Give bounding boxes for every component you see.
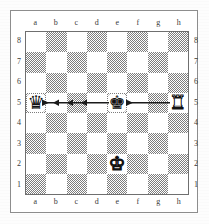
square-a4[interactable] — [26, 113, 46, 133]
square-d8[interactable] — [87, 32, 107, 52]
file-label-c-top: c — [66, 17, 87, 29]
square-h1[interactable] — [168, 174, 188, 194]
square-b4[interactable] — [46, 113, 66, 133]
square-e7[interactable] — [107, 52, 127, 72]
square-b5[interactable] — [46, 93, 66, 113]
square-g3[interactable] — [148, 133, 168, 153]
square-b3[interactable] — [46, 133, 66, 153]
file-label-g-top: g — [148, 17, 169, 29]
square-b8[interactable] — [46, 32, 66, 52]
square-f1[interactable] — [127, 174, 147, 194]
file-label-e-top: e — [107, 17, 128, 29]
square-c3[interactable] — [67, 133, 87, 153]
square-f7[interactable] — [127, 52, 147, 72]
square-d6[interactable] — [87, 73, 107, 93]
file-labels-top: a b c d e f g h — [25, 17, 189, 29]
file-label-d-top: d — [87, 17, 108, 29]
square-h3[interactable] — [168, 133, 188, 153]
file-label-b-bottom: b — [46, 196, 67, 208]
square-g6[interactable] — [148, 73, 168, 93]
square-a2[interactable] — [26, 154, 46, 174]
black-king-glyph: ♚ — [109, 93, 126, 112]
square-b7[interactable] — [46, 52, 66, 72]
square-d5[interactable] — [87, 93, 107, 113]
white-king[interactable]: ♚ — [107, 154, 127, 174]
square-c2[interactable] — [67, 154, 87, 174]
square-c5[interactable] — [67, 93, 87, 113]
square-h7[interactable] — [168, 52, 188, 72]
rank-labels-right: 8 7 6 5 4 3 2 1 — [190, 31, 202, 195]
file-label-e-bottom: e — [107, 196, 128, 208]
white-rook[interactable]: ♜ — [168, 93, 188, 113]
square-g8[interactable] — [148, 32, 168, 52]
square-d4[interactable] — [87, 113, 107, 133]
square-h6[interactable] — [168, 73, 188, 93]
square-h2[interactable] — [168, 154, 188, 174]
square-c7[interactable] — [67, 52, 87, 72]
square-a8[interactable] — [26, 32, 46, 52]
file-label-d-bottom: d — [87, 196, 108, 208]
square-g5[interactable] — [148, 93, 168, 113]
black-king[interactable]: ♚ — [107, 93, 127, 113]
rank-label-7-right: 7 — [190, 52, 202, 73]
square-e1[interactable] — [107, 174, 127, 194]
black-queen[interactable]: ♛ — [26, 93, 46, 113]
rank-label-2-right: 2 — [190, 154, 202, 175]
square-d1[interactable] — [87, 174, 107, 194]
rank-label-8-right: 8 — [190, 31, 202, 52]
square-f6[interactable] — [127, 73, 147, 93]
square-a7[interactable] — [26, 52, 46, 72]
square-g1[interactable] — [148, 174, 168, 194]
rank-label-1-left: 1 — [13, 175, 25, 196]
file-labels-bottom: a b c d e f g h — [25, 196, 189, 208]
square-f4[interactable] — [127, 113, 147, 133]
square-e4[interactable] — [107, 113, 127, 133]
square-a5[interactable]: ♛ — [26, 93, 46, 113]
file-label-f-top: f — [128, 17, 149, 29]
square-f5[interactable] — [127, 93, 147, 113]
square-c1[interactable] — [67, 174, 87, 194]
square-f2[interactable] — [127, 154, 147, 174]
square-g4[interactable] — [148, 113, 168, 133]
file-label-c-bottom: c — [66, 196, 87, 208]
rank-label-5-right: 5 — [190, 93, 202, 114]
square-d2[interactable] — [87, 154, 107, 174]
rank-labels-left: 8 7 6 5 4 3 2 1 — [13, 31, 25, 195]
square-e6[interactable] — [107, 73, 127, 93]
square-c6[interactable] — [67, 73, 87, 93]
square-d3[interactable] — [87, 133, 107, 153]
file-label-a-bottom: a — [25, 196, 46, 208]
square-e5[interactable]: ♚ — [107, 93, 127, 113]
square-e8[interactable] — [107, 32, 127, 52]
square-a3[interactable] — [26, 133, 46, 153]
square-a6[interactable] — [26, 73, 46, 93]
square-b6[interactable] — [46, 73, 66, 93]
square-c4[interactable] — [67, 113, 87, 133]
square-d7[interactable] — [87, 52, 107, 72]
square-b1[interactable] — [46, 174, 66, 194]
file-label-g-bottom: g — [148, 196, 169, 208]
square-e2[interactable]: ♚ — [107, 154, 127, 174]
square-c8[interactable] — [67, 32, 87, 52]
figure-page: a b c d e f g h 8 7 6 5 4 3 2 1 8 7 6 5 … — [0, 0, 209, 224]
square-a1[interactable] — [26, 174, 46, 194]
file-label-a-top: a — [25, 17, 46, 29]
square-f3[interactable] — [127, 133, 147, 153]
square-f8[interactable] — [127, 32, 147, 52]
file-label-b-top: b — [46, 17, 67, 29]
rank-label-4-right: 4 — [190, 113, 202, 134]
chess-board[interactable]: ♛♚♜♚ — [25, 31, 189, 195]
rank-label-4-left: 4 — [13, 113, 25, 134]
square-b2[interactable] — [46, 154, 66, 174]
square-g7[interactable] — [148, 52, 168, 72]
square-h4[interactable] — [168, 113, 188, 133]
rank-label-2-left: 2 — [13, 154, 25, 175]
rank-label-3-right: 3 — [190, 134, 202, 155]
rank-label-6-right: 6 — [190, 72, 202, 93]
rank-label-3-left: 3 — [13, 134, 25, 155]
square-e3[interactable] — [107, 133, 127, 153]
square-h8[interactable] — [168, 32, 188, 52]
square-h5[interactable]: ♜ — [168, 93, 188, 113]
black-queen-glyph: ♛ — [28, 93, 45, 112]
square-g2[interactable] — [148, 154, 168, 174]
